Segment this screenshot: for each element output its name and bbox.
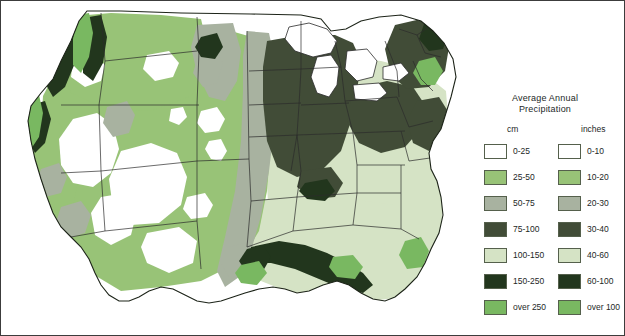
legend-swatch-inches <box>558 248 581 263</box>
legend-row: 75-10030-40 <box>477 220 621 246</box>
legend-header-cm: cm <box>507 124 518 134</box>
legend-swatch-inches <box>558 170 581 185</box>
map-legend: Average Annual Precipitation cm inches 0… <box>477 93 621 325</box>
legend-row: 100-15040-60 <box>477 246 621 272</box>
legend-swatch-cm <box>484 170 507 185</box>
legend-swatch-cm <box>484 144 507 159</box>
legend-label-inches: 10-20 <box>587 172 609 182</box>
legend-column-headers: cm inches <box>477 124 621 140</box>
legend-swatch-cm <box>484 248 507 263</box>
legend-label-cm: 100-150 <box>513 250 544 260</box>
legend-class-list: 0-250-1025-5010-2050-7520-3075-10030-401… <box>477 142 621 324</box>
legend-row: over 250over 100 <box>477 298 621 324</box>
legend-swatch-cm <box>484 274 507 289</box>
us-precipitation-map <box>1 1 471 336</box>
legend-title: Average Annual Precipitation <box>481 93 609 115</box>
legend-swatch-inches <box>558 300 581 315</box>
legend-label-cm: 75-100 <box>513 224 539 234</box>
legend-row: 50-7520-30 <box>477 194 621 220</box>
legend-title-line2: Precipitation <box>481 104 609 115</box>
legend-swatch-cm <box>484 196 507 211</box>
legend-header-inches: inches <box>581 124 606 134</box>
map-canvas <box>1 1 471 336</box>
legend-label-cm: 50-75 <box>513 198 535 208</box>
legend-row: 25-5010-20 <box>477 168 621 194</box>
legend-label-cm: 150-250 <box>513 276 544 286</box>
legend-label-inches: over 100 <box>587 302 620 312</box>
legend-label-inches: 30-40 <box>587 224 609 234</box>
legend-label-inches: 0-10 <box>587 146 604 156</box>
legend-label-cm: 0-25 <box>513 146 530 156</box>
legend-swatch-cm <box>484 300 507 315</box>
legend-label-inches: 20-30 <box>587 198 609 208</box>
legend-label-cm: 25-50 <box>513 172 535 182</box>
legend-label-inches: 40-60 <box>587 250 609 260</box>
legend-swatch-inches <box>558 222 581 237</box>
map-precipitation-bands <box>1 1 471 336</box>
legend-row: 150-25060-100 <box>477 272 621 298</box>
precipitation-map-figure: Average Annual Precipitation cm inches 0… <box>0 0 625 336</box>
legend-swatch-cm <box>484 222 507 237</box>
legend-label-cm: over 250 <box>513 302 546 312</box>
legend-title-line1: Average Annual <box>481 93 609 104</box>
legend-label-inches: 60-100 <box>587 276 613 286</box>
legend-swatch-inches <box>558 144 581 159</box>
legend-swatch-inches <box>558 196 581 211</box>
legend-swatch-inches <box>558 274 581 289</box>
legend-row: 0-250-10 <box>477 142 621 168</box>
